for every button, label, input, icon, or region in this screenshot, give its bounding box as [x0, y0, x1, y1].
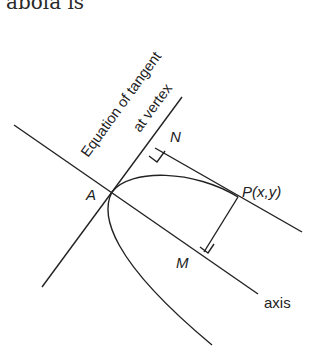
axis-line: [14, 125, 258, 294]
label-M: M: [176, 254, 189, 271]
label-axis: axis: [264, 294, 291, 311]
right-angle-marker-M: [200, 244, 214, 253]
parabola-diagram: A N P(x,y) M axis Equation of tangent at…: [0, 0, 310, 355]
parabola-curve: [108, 175, 238, 345]
label-N: N: [170, 128, 181, 145]
line-PM: [204, 197, 238, 252]
label-A: A: [85, 186, 96, 203]
label-P: P(x,y): [242, 183, 281, 200]
